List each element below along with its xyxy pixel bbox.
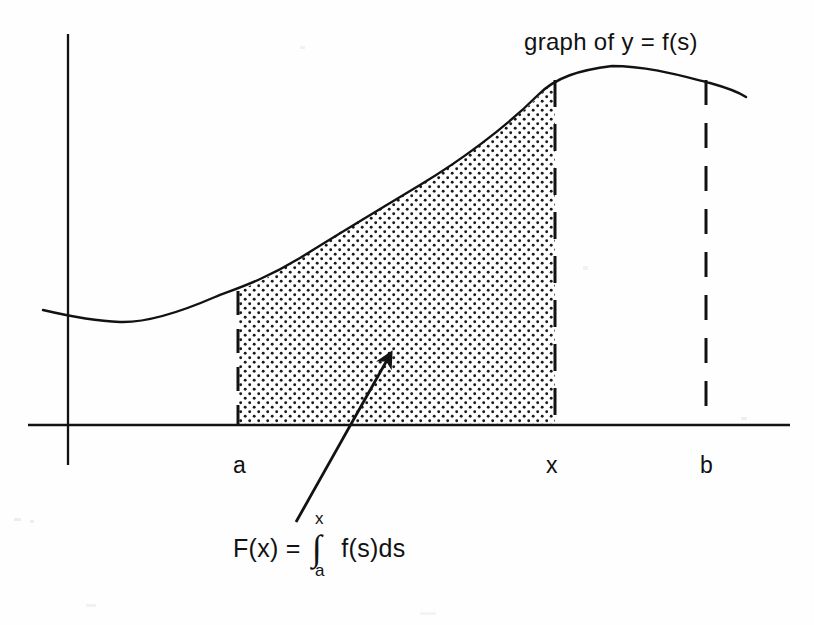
axis-tick-label-a: a <box>233 452 246 479</box>
formula-integrand: f(s)ds <box>341 534 405 563</box>
integral-lower-limit: a <box>315 561 325 581</box>
integral-sign: ∫ <box>312 533 322 563</box>
formula-lhs: F(x) = <box>233 534 301 563</box>
integral-upper-limit: x <box>315 509 324 529</box>
integral-formula: F(x) = x ∫ a f(s)ds <box>233 534 406 565</box>
integral-figure <box>0 0 814 625</box>
axis-tick-label-x: x <box>546 452 558 479</box>
axis-tick-label-b: b <box>700 452 713 479</box>
shaded-area-under-curve <box>230 60 570 435</box>
curve-label: graph of y = f(s) <box>524 28 698 56</box>
integral-sign-group: x ∫ a <box>308 535 334 565</box>
